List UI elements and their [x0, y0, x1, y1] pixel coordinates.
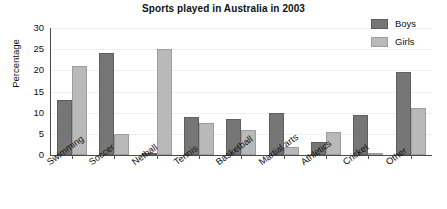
legend-label: Boys — [395, 18, 416, 29]
x-label-slot: Martial arts — [262, 157, 304, 209]
bar-group — [305, 28, 347, 155]
x-label-slot: Athletics — [304, 157, 346, 209]
y-tick-label: 25 — [22, 44, 44, 54]
x-label-slot: Swimming — [50, 157, 92, 209]
bar-girls-other[interactable] — [411, 108, 426, 155]
y-tick-label: 0 — [22, 150, 44, 160]
y-axis-title: Percentage — [10, 14, 21, 114]
chart-container: Sports played in Australia in 2003 Perce… — [0, 0, 447, 209]
bar-girls-soccer[interactable] — [114, 134, 129, 155]
y-tick-label: 20 — [22, 65, 44, 75]
bar-pair — [396, 72, 426, 155]
bar-girls-tennis[interactable] — [199, 123, 214, 155]
bar-boys-other[interactable] — [396, 72, 411, 155]
x-axis-tick-labels: SwimmingSoccerNetballTennisBasketballMar… — [50, 157, 431, 209]
legend-item-boys[interactable]: Boys — [371, 18, 439, 29]
bar-pair — [99, 53, 129, 155]
bar-group — [220, 28, 262, 155]
y-tick-label: 5 — [22, 129, 44, 139]
x-label-slot: Basketball — [219, 157, 261, 209]
legend-item-girls[interactable]: Girls — [371, 36, 439, 47]
x-label-slot: Cricket — [346, 157, 388, 209]
bar-group — [51, 28, 93, 155]
x-label-slot: Tennis — [177, 157, 219, 209]
y-tick-label: 15 — [22, 87, 44, 97]
bar-girls-netball[interactable] — [157, 49, 172, 155]
legend-label: Girls — [395, 36, 415, 47]
y-axis-tick-labels: 051015202530 — [22, 22, 44, 156]
bar-boys-soccer[interactable] — [99, 53, 114, 155]
x-label-slot: Soccer — [92, 157, 134, 209]
bar-pair — [142, 49, 172, 155]
bar-group — [178, 28, 220, 155]
y-tick-label: 30 — [22, 23, 44, 33]
bar-group — [263, 28, 305, 155]
bar-group — [136, 28, 178, 155]
chart-title: Sports played in Australia in 2003 — [0, 3, 447, 14]
bar-girls-cricket[interactable] — [368, 153, 383, 155]
chart-legend: BoysGirls — [371, 18, 439, 54]
y-tick-label: 10 — [22, 108, 44, 118]
bar-group — [93, 28, 135, 155]
legend-swatch-boys — [371, 19, 388, 29]
x-label-slot: Netball — [135, 157, 177, 209]
legend-swatch-girls — [371, 37, 388, 47]
x-label-slot: Other — [389, 157, 431, 209]
